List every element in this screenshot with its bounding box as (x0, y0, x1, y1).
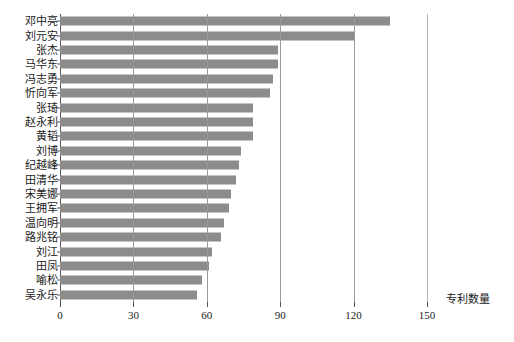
bar (60, 175, 236, 184)
bar (60, 146, 241, 155)
bar-row: 邓中亮 (0, 14, 514, 28)
gridline-90 (280, 14, 281, 302)
bar-row: 田凤 (0, 259, 514, 273)
bar-row: 张琦 (0, 100, 514, 114)
bar-row: 路兆铭 (0, 230, 514, 244)
bar-category-label: 王拥军 (25, 202, 58, 214)
bar-category-label: 冯志勇 (25, 73, 58, 85)
tick-label: 150 (419, 309, 436, 322)
bar-category-label: 张琦 (36, 102, 58, 114)
bar-row: 刘元安 (0, 28, 514, 42)
bar-category-label: 田凤 (36, 260, 58, 272)
bar-row: 王拥军 (0, 201, 514, 215)
bar (60, 276, 202, 285)
bar (60, 132, 253, 141)
bar-row: 刘博 (0, 144, 514, 158)
bar-row: 忻向军 (0, 86, 514, 100)
bar (60, 218, 224, 227)
bar-category-label: 宋美娜 (25, 188, 58, 200)
tick-label: 30 (128, 309, 139, 322)
x-axis-title: 专利数量 (446, 293, 490, 306)
bar (60, 261, 209, 270)
bar (60, 117, 253, 126)
bar (60, 103, 253, 112)
bar-category-label: 忻向军 (25, 87, 58, 99)
bar-category-label: 温向明 (25, 217, 58, 229)
bar-row: 温向明 (0, 216, 514, 230)
bar (60, 204, 229, 213)
gridline-120 (354, 14, 355, 302)
bar (60, 247, 212, 256)
tick-mark (354, 302, 355, 307)
bar-row: 纪越峰 (0, 158, 514, 172)
tick-mark (280, 302, 281, 307)
bar (60, 17, 390, 26)
tick-mark (133, 302, 134, 307)
bar-category-label: 喻松 (36, 274, 58, 286)
bar-category-label: 黄韬 (36, 130, 58, 142)
bar (60, 60, 278, 69)
bar-category-label: 刘元安 (25, 30, 58, 42)
gridline-30 (133, 14, 134, 302)
tick-label: 0 (57, 309, 63, 322)
bar-category-label: 马华东 (25, 58, 58, 70)
bar (60, 290, 197, 299)
bar-row: 田清华 (0, 172, 514, 186)
bar-row: 吴永乐 (0, 288, 514, 302)
tick-mark (427, 302, 428, 307)
bar-category-label: 田清华 (25, 174, 58, 186)
bar-category-label: 邓中亮 (25, 15, 58, 27)
bar-category-label: 路兆铭 (25, 231, 58, 243)
tick-mark (207, 302, 208, 307)
bar-category-label: 吴永乐 (25, 289, 58, 301)
bar (60, 189, 231, 198)
gridline-60 (207, 14, 208, 302)
tick-label: 60 (201, 309, 212, 322)
bar-row: 宋美娜 (0, 187, 514, 201)
bar (60, 161, 239, 170)
tick-mark (60, 302, 61, 307)
bar-row: 赵永利 (0, 115, 514, 129)
bar-category-label: 刘江 (36, 246, 58, 258)
x-axis-ticks: 0306090120150 (0, 302, 514, 328)
bar-row: 张杰 (0, 43, 514, 57)
bar (60, 45, 278, 54)
bar-chart: 邓中亮刘元安张杰马华东冯志勇忻向军张琦赵永利黄韬刘博纪越峰田清华宋美娜王拥军温向… (0, 0, 514, 342)
bar-category-label: 纪越峰 (25, 159, 58, 171)
bar-category-label: 赵永利 (25, 116, 58, 128)
tick-label: 90 (275, 309, 286, 322)
gridline-150 (427, 14, 428, 302)
bar-row: 黄韬 (0, 129, 514, 143)
bar-row: 冯志勇 (0, 72, 514, 86)
bar-row: 喻松 (0, 273, 514, 287)
bar (60, 233, 221, 242)
bar-category-label: 张杰 (36, 44, 58, 56)
bar (60, 89, 270, 98)
bar-category-label: 刘博 (36, 145, 58, 157)
bar-row: 马华东 (0, 57, 514, 71)
bar-rows: 邓中亮刘元安张杰马华东冯志勇忻向军张琦赵永利黄韬刘博纪越峰田清华宋美娜王拥军温向… (0, 14, 514, 302)
bar (60, 74, 273, 83)
tick-label: 120 (345, 309, 362, 322)
bar-row: 刘江 (0, 244, 514, 258)
